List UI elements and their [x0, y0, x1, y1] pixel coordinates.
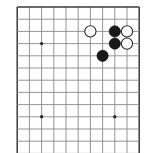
- stone-black-5[interactable]: [97, 50, 108, 61]
- stone-white-0[interactable]: [85, 26, 96, 37]
- go-board-diagram: [0, 0, 157, 153]
- star-point-2: [113, 115, 116, 118]
- stone-black-3[interactable]: [109, 38, 120, 49]
- star-point-1: [40, 115, 43, 118]
- stone-black-1[interactable]: [109, 26, 120, 37]
- stone-white-2[interactable]: [121, 26, 132, 37]
- go-board-canvas: [0, 0, 157, 153]
- grid-lines-group: [17, 7, 139, 153]
- star-point-0: [40, 42, 43, 45]
- stone-white-4[interactable]: [121, 38, 132, 49]
